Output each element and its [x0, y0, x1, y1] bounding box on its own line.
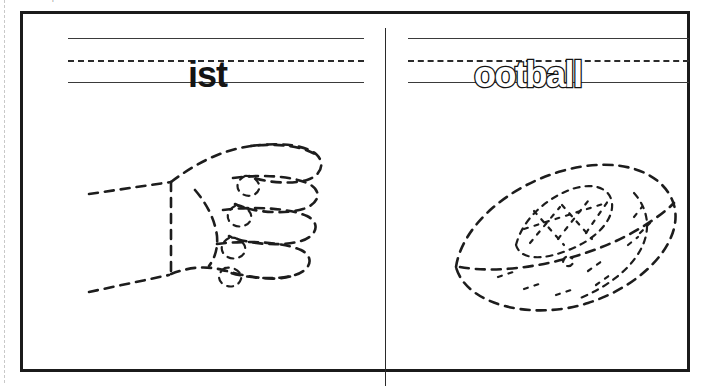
instruction-text: Finish the picture. Match the word.: [14, 0, 140, 2]
rule-top-line: [408, 38, 689, 39]
handwriting-rules-right: ootball: [408, 38, 689, 84]
rule-top-line: [68, 38, 364, 39]
word-fist: ist: [188, 57, 227, 93]
football-drawing: [438, 149, 698, 329]
handwriting-rules-left: ist: [68, 38, 364, 84]
panel-divider: [385, 28, 386, 386]
worksheet-frame: ist: [20, 11, 690, 372]
word-football: ootball: [474, 57, 581, 93]
page-perforation-line: [4, 0, 5, 383]
fist-drawing: [83, 132, 353, 317]
